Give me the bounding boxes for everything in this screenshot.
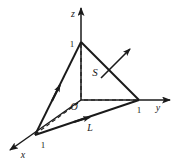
x-axis-label: x — [20, 149, 26, 160]
z-axis-label: z — [70, 8, 75, 19]
surface-label-S: S — [92, 66, 98, 78]
normal-arrow — [101, 49, 130, 78]
vector-diagram: z y x 1 1 1 O S L — [0, 0, 174, 163]
tick-label-y-1: 1 — [137, 105, 142, 115]
tick-label-x-1: 1 — [41, 140, 46, 150]
origin-label: O — [70, 101, 77, 112]
normal-vector-group — [101, 49, 130, 78]
y-axis-label: y — [155, 102, 161, 113]
tick-label-z-1: 1 — [70, 39, 75, 49]
curve-label-L: L — [86, 122, 93, 133]
figure-container: z y x 1 1 1 O S L — [0, 0, 174, 163]
edge-z-to-y — [81, 42, 139, 100]
arrow-on-left-edge — [52, 85, 60, 101]
